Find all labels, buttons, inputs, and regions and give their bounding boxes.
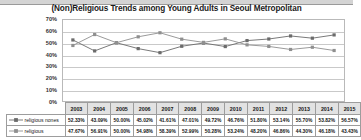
header-blank-cell [7, 103, 66, 115]
table-row: religious nones52.33%43.09%50.00%45.02%4… [7, 115, 361, 126]
data-point-marker [115, 41, 118, 44]
data-point-marker [180, 38, 183, 41]
data-cell: 46.86% [270, 126, 293, 137]
data-point-marker [71, 44, 74, 47]
data-point-marker [158, 51, 161, 54]
data-cell: 48.20% [247, 126, 270, 137]
data-cell: 50.00% [111, 126, 134, 137]
table-body: religious nones52.33%43.09%50.00%45.02%4… [7, 115, 361, 137]
data-cell: 56.57% [338, 115, 361, 126]
data-cell: 41.61% [156, 115, 179, 126]
legend-entry-religious: religious [7, 126, 66, 137]
data-cell: 53.82% [315, 115, 338, 126]
data-point-marker [202, 41, 205, 44]
plot-area-wrapper [62, 19, 345, 102]
data-point-marker [311, 46, 314, 49]
data-point-marker [224, 37, 227, 40]
y-axis-tick-label: 40% [46, 52, 57, 58]
data-cell: 50.28% [202, 126, 225, 137]
data-point-marker [137, 47, 140, 50]
y-axis-tick-label: 60% [46, 28, 57, 34]
data-cell: 44.30% [293, 126, 316, 137]
year-header-2007: 2007 [156, 103, 179, 115]
data-cell: 50.00% [111, 115, 134, 126]
data-cell: 58.39% [156, 126, 179, 137]
data-cell: 47.67% [65, 126, 88, 137]
data-table-wrapper: 2003200420052006200720082009201020112012… [6, 102, 347, 137]
data-cell: 55.70% [293, 115, 316, 126]
legend-label: religious [25, 127, 44, 133]
data-point-marker [267, 37, 270, 40]
year-header-2013: 2013 [293, 103, 316, 115]
data-cell: 53.24% [224, 126, 247, 137]
chart-title: (Non)Religious Trends among Young Adults… [0, 4, 353, 13]
y-axis-tick-label: 10% [46, 87, 57, 93]
table-header-row: 2003200420052006200720082009201020112012… [7, 103, 361, 115]
data-cell: 43.09% [88, 115, 111, 126]
series-lines [62, 19, 345, 102]
year-header-2005: 2005 [111, 103, 134, 115]
data-point-marker [333, 49, 336, 52]
y-axis-tick-label: 70% [46, 16, 57, 22]
year-header-2004: 2004 [88, 103, 111, 115]
series-religious [71, 31, 335, 52]
y-axis-labels: 70%60%50%40%30%20%10%0% [0, 19, 60, 102]
legend-marker-icon [9, 117, 23, 123]
data-point-marker [245, 39, 248, 42]
year-header-2012: 2012 [270, 103, 293, 115]
data-cell: 56.91% [88, 126, 111, 137]
data-cell: 52.33% [65, 115, 88, 126]
data-point-marker [289, 34, 292, 37]
legend-label: religious nones [25, 116, 59, 122]
data-cell: 45.02% [133, 115, 156, 126]
year-header-2010: 2010 [224, 103, 247, 115]
year-header-2008: 2008 [179, 103, 202, 115]
data-point-marker [289, 48, 292, 51]
data-point-marker [137, 35, 140, 38]
data-point-marker [93, 33, 96, 36]
year-header-2003: 2003 [65, 103, 88, 115]
table-row: religious47.67%56.91%50.00%54.98%58.39%5… [7, 126, 361, 137]
data-cell: 52.99% [179, 126, 202, 137]
data-point-marker [333, 33, 336, 36]
data-point-marker [158, 31, 161, 34]
data-point-marker [245, 43, 248, 46]
data-point-marker [71, 38, 74, 41]
data-cell: 53.14% [270, 115, 293, 126]
legend-marker-icon [9, 128, 23, 134]
data-cell: 46.76% [224, 115, 247, 126]
data-point-marker [267, 45, 270, 48]
data-point-marker [224, 45, 227, 48]
year-header-2006: 2006 [133, 103, 156, 115]
year-header-2011: 2011 [247, 103, 270, 115]
year-header-2014: 2014 [315, 103, 338, 115]
data-cell: 47.01% [179, 115, 202, 126]
y-axis-tick-label: 20% [46, 75, 57, 81]
y-axis-tick-label: 50% [46, 40, 57, 46]
y-axis-tick-label: 30% [46, 63, 57, 69]
legend-entry-religious-nones: religious nones [7, 115, 66, 126]
data-cell: 54.98% [133, 126, 156, 137]
data-table: 2003200420052006200720082009201020112012… [6, 102, 361, 137]
data-cell: 43.43% [338, 126, 361, 137]
year-header-2009: 2009 [202, 103, 225, 115]
data-cell: 46.18% [315, 126, 338, 137]
data-cell: 49.72% [202, 115, 225, 126]
data-point-marker [93, 49, 96, 52]
year-header-2015: 2015 [338, 103, 361, 115]
data-cell: 51.80% [247, 115, 270, 126]
data-point-marker [180, 45, 183, 48]
data-point-marker [311, 37, 314, 40]
